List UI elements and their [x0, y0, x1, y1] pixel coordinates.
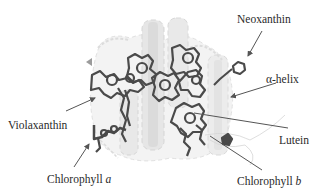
- label-neoxanthin: Neoxanthin: [237, 14, 291, 26]
- label-chlorophyll-a-suffix: a: [105, 173, 111, 185]
- label-chlorophyll-b-text: Chlorophyll: [237, 175, 295, 187]
- label-alpha-helix: α-helix: [266, 74, 299, 86]
- label-chlorophyll-b: Chlorophyll b: [237, 176, 301, 188]
- label-neoxanthin-text: Neoxanthin: [237, 13, 291, 25]
- label-violaxanthin: Violaxanthin: [8, 120, 67, 132]
- protein-ribbon-structure: [0, 0, 326, 196]
- protein-structure-figure: Neoxanthin α-helix Violaxanthin Chloroph…: [0, 0, 326, 196]
- label-chlorophyll-a: Chlorophyll a: [47, 174, 111, 186]
- label-violaxanthin-text: Violaxanthin: [8, 119, 67, 131]
- arrow-neoxanthin: [248, 31, 262, 56]
- arrow-chlorophyll-a: [74, 144, 89, 167]
- label-alpha-helix-text: α-helix: [266, 73, 299, 85]
- label-chlorophyll-b-suffix: b: [295, 175, 301, 187]
- label-lutein: Lutein: [279, 135, 309, 147]
- label-lutein-text: Lutein: [279, 134, 309, 146]
- label-chlorophyll-a-text: Chlorophyll: [47, 173, 105, 185]
